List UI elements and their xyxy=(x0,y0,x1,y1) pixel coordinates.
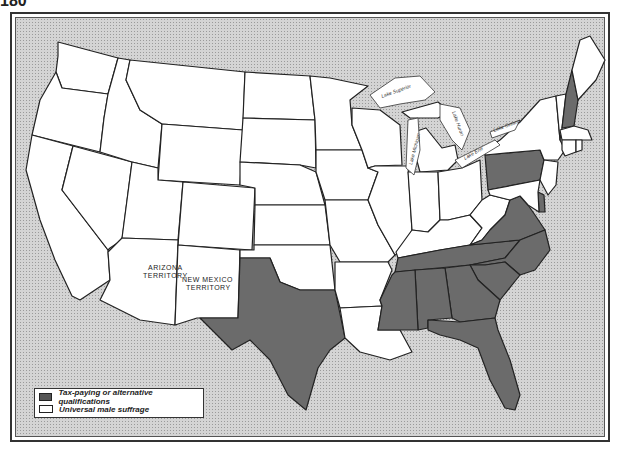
newmexico-label-2: TERRITORY xyxy=(186,284,231,291)
legend-label: Tax-paying or alternative qualifications xyxy=(58,388,199,406)
state-new-jersey xyxy=(540,160,558,195)
lake-superior xyxy=(370,76,435,108)
state-rhode-island xyxy=(576,140,582,152)
state-massachusetts xyxy=(560,126,592,140)
state-maine xyxy=(572,36,605,100)
state-colorado xyxy=(178,182,255,250)
state-washington xyxy=(56,42,118,94)
legend-label: Universal male suffrage xyxy=(59,405,149,414)
us-suffrage-map: ARIZONA TERRITORY NEW MEXICO TERRITORY L… xyxy=(0,0,624,453)
state-connecticut xyxy=(562,140,576,156)
state-indiana xyxy=(408,172,440,232)
state-south-dakota xyxy=(240,118,316,168)
newmexico-label-1: NEW MEXICO xyxy=(182,276,233,283)
map-legend: Tax-paying or alternative qualifications… xyxy=(34,388,204,418)
dark-swatch-icon xyxy=(39,393,52,401)
arizona-label-1: ARIZONA xyxy=(148,264,183,271)
arizona-label-2: TERRITORY xyxy=(143,272,188,279)
state-florida xyxy=(428,318,520,410)
state-wyoming xyxy=(158,124,243,185)
state-north-dakota xyxy=(243,72,315,120)
white-swatch-icon xyxy=(39,405,53,413)
legend-item-tax-paying: Tax-paying or alternative qualifications xyxy=(39,391,199,403)
state-kansas xyxy=(254,205,330,245)
state-arizona-territory xyxy=(100,238,178,325)
